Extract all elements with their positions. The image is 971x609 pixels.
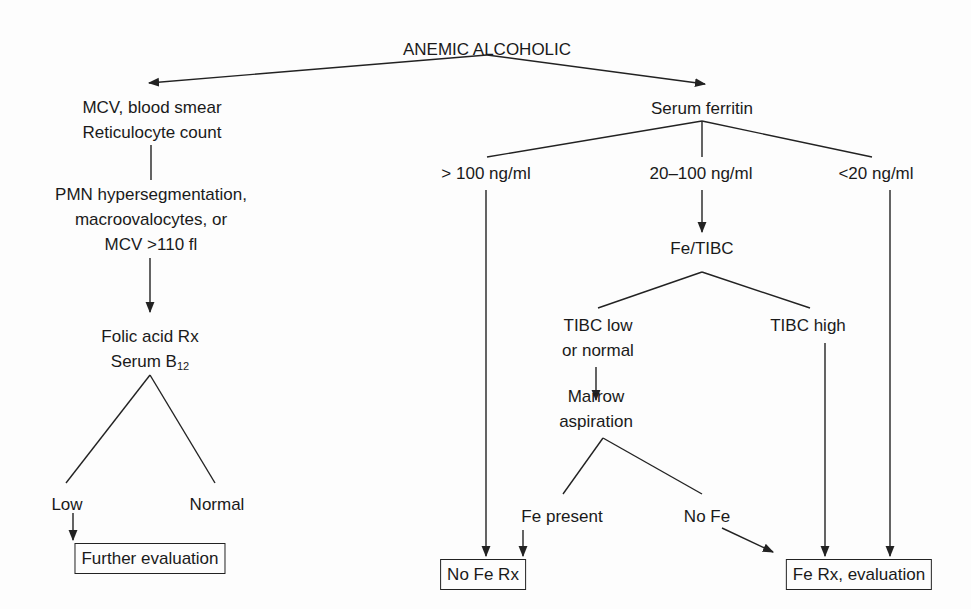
tibc-high-node: TIBC high <box>770 313 846 338</box>
low-outcome-node: Low <box>51 492 82 517</box>
edge-ferritin-to-high <box>487 121 702 157</box>
folic-acid-node: Folic acid Rx Serum B12 <box>101 324 198 374</box>
low-text: Low <box>51 492 82 517</box>
serum-ferritin-node: Serum ferritin <box>651 96 753 121</box>
edge-fetibc-to-high <box>702 272 810 308</box>
serum-b-text: Serum B <box>111 352 177 371</box>
no-fe-node: No Fe <box>684 504 730 529</box>
macrocytic-findings-node: PMN hypersegmentation, macroovalocytes, … <box>55 182 247 257</box>
fe-rx-evaluation-text: Fe Rx, evaluation <box>793 563 925 587</box>
ferritin-low-node: <20 ng/ml <box>838 161 913 186</box>
edge-ferritin-to-low <box>702 121 872 157</box>
folic-acid-text: Folic acid Rx <box>101 324 198 349</box>
edge-marrow-to-present <box>563 438 603 494</box>
fe-tibc-text: Fe/TIBC <box>670 236 733 261</box>
pmn-text: PMN hypersegmentation, <box>55 182 247 207</box>
fe-rx-evaluation-box: Fe Rx, evaluation <box>786 559 932 590</box>
edge-nofe-to-ferx <box>722 528 773 552</box>
fe-present-text: Fe present <box>521 504 602 529</box>
serum-b12-text: Serum B12 <box>101 349 198 374</box>
ferritin-low-text: <20 ng/ml <box>838 161 913 186</box>
initial-tests-node: MCV, blood smear Reticulocyte count <box>82 95 221 145</box>
edge-folic-to-low <box>66 375 150 483</box>
tibc-high-text: TIBC high <box>770 313 846 338</box>
title-text: ANEMIC ALCOHOLIC <box>403 37 571 62</box>
edge-fetibc-to-lownormal <box>598 272 702 308</box>
no-fe-rx-text: No Fe Rx <box>447 563 519 587</box>
tibc-low-normal-node: TIBC low or normal <box>562 313 634 363</box>
ferritin-high-text: > 100 ng/ml <box>441 161 530 186</box>
reticulocyte-text: Reticulocyte count <box>82 120 221 145</box>
connector-lines <box>0 0 971 609</box>
title-node: ANEMIC ALCOHOLIC <box>403 37 571 62</box>
flowchart-canvas: ANEMIC ALCOHOLIC MCV, blood smear Reticu… <box>0 0 971 609</box>
further-evaluation-box: Further evaluation <box>74 543 225 574</box>
ferritin-mid-node: 20–100 ng/ml <box>649 161 752 186</box>
marrow-text: Marrow <box>559 384 633 409</box>
no-fe-rx-box: No Fe Rx <box>440 559 526 590</box>
ferritin-high-node: > 100 ng/ml <box>441 161 530 186</box>
macroovalocytes-text: macroovalocytes, or <box>55 207 247 232</box>
no-fe-text: No Fe <box>684 504 730 529</box>
normal-outcome-node: Normal <box>190 492 245 517</box>
fe-tibc-node: Fe/TIBC <box>670 236 733 261</box>
mcv-threshold-text: MCV >110 fl <box>55 232 247 257</box>
edge-folic-to-normal <box>150 375 215 483</box>
normal-text: Normal <box>190 492 245 517</box>
marrow-aspiration-node: Marrow aspiration <box>559 384 633 434</box>
serum-ferritin-text: Serum ferritin <box>651 96 753 121</box>
mcv-smear-text: MCV, blood smear <box>82 95 221 120</box>
further-evaluation-text: Further evaluation <box>81 547 218 571</box>
ferritin-mid-text: 20–100 ng/ml <box>649 161 752 186</box>
tibc-low-text: TIBC low <box>562 313 634 338</box>
fe-present-node: Fe present <box>521 504 602 529</box>
edge-marrow-to-nofe <box>603 438 702 494</box>
or-normal-text: or normal <box>562 338 634 363</box>
b12-subscript: 12 <box>177 360 189 372</box>
aspiration-text: aspiration <box>559 409 633 434</box>
